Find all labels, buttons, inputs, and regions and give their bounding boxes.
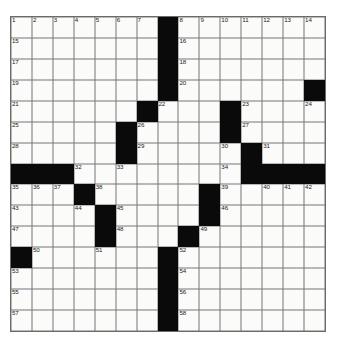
- crossword-cell[interactable]: 11: [241, 17, 262, 38]
- crossword-cell[interactable]: 43: [11, 205, 32, 226]
- crossword-cell[interactable]: [53, 268, 74, 289]
- crossword-cell[interactable]: [241, 184, 262, 205]
- crossword-cell[interactable]: [283, 226, 304, 247]
- crossword-cell[interactable]: [199, 289, 220, 310]
- crossword-grid[interactable]: 1234567891011121314151617181920212223242…: [10, 16, 326, 332]
- crossword-cell[interactable]: [137, 226, 158, 247]
- crossword-cell[interactable]: 1: [11, 17, 32, 38]
- crossword-cell[interactable]: [178, 122, 199, 143]
- crossword-cell[interactable]: [220, 289, 241, 310]
- crossword-cell[interactable]: [116, 38, 137, 59]
- crossword-cell[interactable]: [137, 205, 158, 226]
- crossword-cell[interactable]: [178, 184, 199, 205]
- crossword-cell[interactable]: [304, 268, 325, 289]
- crossword-cell[interactable]: [178, 143, 199, 164]
- crossword-cell[interactable]: 19: [11, 80, 32, 101]
- crossword-cell[interactable]: [32, 310, 53, 331]
- crossword-cell[interactable]: [32, 226, 53, 247]
- crossword-cell[interactable]: 48: [116, 226, 137, 247]
- crossword-cell[interactable]: 56: [178, 289, 199, 310]
- crossword-cell[interactable]: [32, 268, 53, 289]
- crossword-cell[interactable]: [95, 59, 116, 80]
- crossword-cell[interactable]: [262, 122, 283, 143]
- crossword-cell[interactable]: [95, 268, 116, 289]
- crossword-cell[interactable]: [241, 80, 262, 101]
- crossword-cell[interactable]: [32, 122, 53, 143]
- crossword-cell[interactable]: [283, 80, 304, 101]
- crossword-cell[interactable]: [116, 101, 137, 122]
- crossword-cell[interactable]: [116, 59, 137, 80]
- crossword-cell[interactable]: 20: [178, 80, 199, 101]
- crossword-cell[interactable]: [116, 247, 137, 268]
- crossword-cell[interactable]: 27: [241, 122, 262, 143]
- crossword-cell[interactable]: 34: [220, 164, 241, 185]
- crossword-cell[interactable]: [137, 247, 158, 268]
- crossword-cell[interactable]: 12: [262, 17, 283, 38]
- crossword-cell[interactable]: [241, 59, 262, 80]
- crossword-cell[interactable]: 23: [241, 101, 262, 122]
- crossword-cell[interactable]: [304, 310, 325, 331]
- crossword-cell[interactable]: 6: [116, 17, 137, 38]
- crossword-cell[interactable]: 40: [262, 184, 283, 205]
- crossword-cell[interactable]: 22: [158, 101, 179, 122]
- crossword-cell[interactable]: [95, 80, 116, 101]
- crossword-cell[interactable]: 58: [178, 310, 199, 331]
- crossword-cell[interactable]: [304, 38, 325, 59]
- crossword-cell[interactable]: [158, 205, 179, 226]
- crossword-cell[interactable]: [158, 164, 179, 185]
- crossword-cell[interactable]: [220, 59, 241, 80]
- crossword-cell[interactable]: [304, 122, 325, 143]
- crossword-cell[interactable]: [53, 143, 74, 164]
- crossword-cell[interactable]: 50: [32, 247, 53, 268]
- crossword-cell[interactable]: [74, 289, 95, 310]
- crossword-cell[interactable]: [262, 289, 283, 310]
- crossword-cell[interactable]: [137, 310, 158, 331]
- crossword-cell[interactable]: [304, 289, 325, 310]
- crossword-cell[interactable]: [74, 38, 95, 59]
- crossword-cell[interactable]: [116, 268, 137, 289]
- crossword-cell[interactable]: [53, 101, 74, 122]
- crossword-cell[interactable]: [158, 122, 179, 143]
- crossword-cell[interactable]: [304, 143, 325, 164]
- crossword-cell[interactable]: 47: [11, 226, 32, 247]
- crossword-cell[interactable]: [32, 289, 53, 310]
- crossword-cell[interactable]: [220, 226, 241, 247]
- crossword-cell[interactable]: [137, 80, 158, 101]
- crossword-cell[interactable]: [53, 122, 74, 143]
- crossword-cell[interactable]: [53, 310, 74, 331]
- crossword-cell[interactable]: [241, 310, 262, 331]
- crossword-cell[interactable]: 9: [199, 17, 220, 38]
- crossword-cell[interactable]: [53, 80, 74, 101]
- crossword-cell[interactable]: 5: [95, 17, 116, 38]
- crossword-cell[interactable]: [137, 164, 158, 185]
- crossword-cell[interactable]: [74, 101, 95, 122]
- crossword-cell[interactable]: [283, 205, 304, 226]
- crossword-cell[interactable]: 30: [220, 143, 241, 164]
- crossword-cell[interactable]: 2: [32, 17, 53, 38]
- crossword-cell[interactable]: [220, 247, 241, 268]
- crossword-cell[interactable]: 3: [53, 17, 74, 38]
- crossword-cell[interactable]: [283, 310, 304, 331]
- crossword-cell[interactable]: [95, 38, 116, 59]
- crossword-cell[interactable]: 8: [178, 17, 199, 38]
- crossword-cell[interactable]: 54: [178, 268, 199, 289]
- crossword-cell[interactable]: [95, 122, 116, 143]
- crossword-cell[interactable]: [241, 205, 262, 226]
- crossword-cell[interactable]: [116, 184, 137, 205]
- crossword-cell[interactable]: [220, 268, 241, 289]
- crossword-cell[interactable]: 41: [283, 184, 304, 205]
- crossword-cell[interactable]: [53, 289, 74, 310]
- crossword-cell[interactable]: [199, 164, 220, 185]
- crossword-cell[interactable]: [178, 101, 199, 122]
- crossword-cell[interactable]: [241, 268, 262, 289]
- crossword-cell[interactable]: 38: [95, 184, 116, 205]
- crossword-cell[interactable]: 51: [95, 247, 116, 268]
- crossword-cell[interactable]: [32, 80, 53, 101]
- crossword-cell[interactable]: [32, 143, 53, 164]
- crossword-cell[interactable]: 24: [304, 101, 325, 122]
- crossword-cell[interactable]: [304, 205, 325, 226]
- crossword-cell[interactable]: [262, 38, 283, 59]
- crossword-cell[interactable]: [199, 143, 220, 164]
- crossword-cell[interactable]: [53, 38, 74, 59]
- crossword-cell[interactable]: [74, 226, 95, 247]
